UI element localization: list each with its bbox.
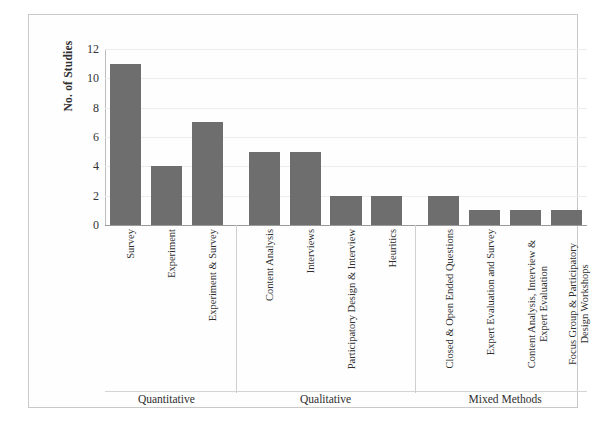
category-label-slot: Interviews bbox=[285, 227, 326, 387]
y-tick-label: 4 bbox=[69, 160, 99, 172]
bar-slot bbox=[326, 49, 367, 225]
category-label-slot: Content Analysis bbox=[244, 227, 285, 387]
bar[interactable] bbox=[551, 210, 582, 225]
y-axis-tick-labels: 121086420 bbox=[69, 43, 99, 231]
bar[interactable] bbox=[371, 196, 402, 225]
bar-slot bbox=[366, 49, 407, 225]
category-label: Closed & Open Ended Questions bbox=[444, 229, 456, 368]
bar-slot bbox=[146, 49, 187, 225]
bar-slot bbox=[244, 49, 285, 225]
bar[interactable] bbox=[290, 152, 321, 225]
category-label-slot: Heuritics bbox=[366, 227, 407, 387]
category-label-slot: Closed & Open Ended Questions bbox=[423, 227, 464, 387]
x-axis-line bbox=[105, 225, 587, 226]
category-label-slot: Experiment bbox=[146, 227, 187, 387]
category-label: Participatory Design & Interview bbox=[346, 229, 358, 369]
category-label: Experiment bbox=[166, 229, 178, 278]
category-label-slot: Content Analysis, Interview & Expert Eva… bbox=[505, 227, 546, 387]
category-label: Interviews bbox=[305, 229, 317, 273]
group-separator bbox=[236, 225, 237, 393]
bar[interactable] bbox=[330, 196, 361, 225]
bar[interactable] bbox=[428, 196, 459, 225]
bar[interactable] bbox=[510, 210, 541, 225]
category-label: Expert Evaluation and Survey bbox=[485, 229, 497, 355]
group-axis-line bbox=[105, 391, 587, 392]
bar-slot bbox=[105, 49, 146, 225]
y-tick-label: 10 bbox=[69, 72, 99, 84]
y-tick-label: 12 bbox=[69, 43, 99, 55]
y-tick-label: 6 bbox=[69, 131, 99, 143]
group-label: Quantitative bbox=[86, 393, 246, 405]
category-label: Heuritics bbox=[387, 229, 399, 268]
bar[interactable] bbox=[110, 64, 141, 225]
group-separator bbox=[415, 225, 416, 393]
bar-slot bbox=[546, 49, 587, 225]
category-label-slot: Participatory Design & Interview bbox=[326, 227, 367, 387]
category-label: Focus Group & Participatory Design Works… bbox=[567, 229, 590, 379]
category-axis-labels: SurveyExperimentExperiment & SurveyConte… bbox=[105, 227, 587, 387]
bar[interactable] bbox=[151, 166, 182, 225]
category-label-slot: Experiment & Survey bbox=[187, 227, 228, 387]
category-label-slot: Expert Evaluation and Survey bbox=[464, 227, 505, 387]
category-label-slot: Survey bbox=[105, 227, 146, 387]
plot-area bbox=[105, 49, 587, 225]
bar[interactable] bbox=[249, 152, 280, 225]
group-label: Mixed Methods bbox=[425, 393, 585, 405]
category-label: Content Analysis bbox=[264, 229, 276, 301]
y-tick-label: 2 bbox=[69, 190, 99, 202]
category-label-slot: Focus Group & Participatory Design Works… bbox=[546, 227, 587, 387]
bar-slot bbox=[285, 49, 326, 225]
category-label: Experiment & Survey bbox=[207, 229, 219, 321]
bar-slot bbox=[464, 49, 505, 225]
bar-slot bbox=[187, 49, 228, 225]
y-tick-label: 8 bbox=[69, 102, 99, 114]
group-label: Qualitative bbox=[246, 393, 406, 405]
y-tick-label: 0 bbox=[69, 219, 99, 231]
chart-frame: No. of Studies 121086420 SurveyExperimen… bbox=[28, 14, 578, 408]
bar[interactable] bbox=[192, 122, 223, 225]
bar-slot bbox=[505, 49, 546, 225]
bars-layer bbox=[105, 49, 587, 225]
category-label: Survey bbox=[125, 229, 137, 259]
bar-slot bbox=[423, 49, 464, 225]
bar[interactable] bbox=[469, 210, 500, 225]
